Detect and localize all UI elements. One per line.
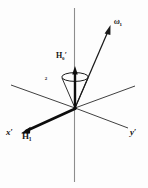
omega2-cone-label: 2	[45, 72, 47, 80]
x-axis-negative-line	[75, 86, 135, 108]
x-axis-h1-line	[26, 109, 76, 132]
h0-vector-label: H0′	[56, 52, 67, 60]
y-axis-negative-line	[11, 85, 75, 108]
y-axis-label: y′	[130, 128, 136, 137]
x-axis-label: x′	[6, 128, 13, 137]
h1-vector-label: H1	[22, 132, 32, 141]
y-axis-line	[75, 108, 128, 128]
cone-left-edge	[62, 78, 75, 108]
origin-point	[74, 107, 76, 109]
omega1-vector-label: ω1	[114, 18, 122, 26]
vector-diagram-figure	[0, 0, 148, 188]
omega1-arrowhead	[105, 25, 111, 35]
h0-arrowhead	[72, 66, 78, 75]
